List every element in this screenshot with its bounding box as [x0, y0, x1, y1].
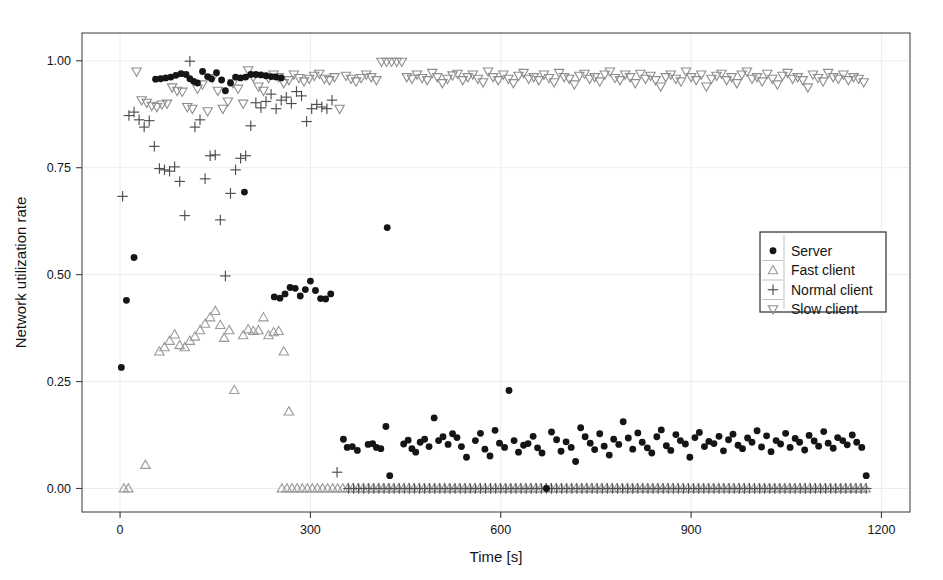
data-point: [227, 80, 234, 87]
data-point: [543, 485, 550, 492]
data-point: [405, 437, 412, 444]
data-point: [711, 440, 718, 447]
data-point: [421, 436, 428, 443]
data-point: [297, 293, 304, 300]
data-point: [312, 287, 319, 294]
y-tick-label: 0.50: [47, 268, 71, 282]
data-point: [278, 74, 285, 81]
data-point: [377, 445, 384, 452]
data-point: [796, 439, 803, 446]
data-point: [754, 427, 761, 434]
data-point: [354, 447, 361, 454]
data-point: [340, 436, 347, 443]
data-point: [658, 426, 665, 433]
legend-label: Normal client: [791, 282, 873, 298]
data-point: [327, 290, 334, 297]
data-point: [853, 439, 860, 446]
data-point: [431, 414, 438, 421]
data-point: [682, 441, 689, 448]
data-point: [384, 224, 391, 231]
data-point: [563, 438, 570, 445]
data-point: [725, 436, 732, 443]
data-point: [858, 444, 865, 451]
data-point: [844, 441, 851, 448]
data-point: [454, 434, 461, 441]
data-point: [477, 430, 484, 437]
data-point: [825, 440, 832, 447]
data-point: [123, 297, 130, 304]
data-point: [782, 430, 789, 437]
data-point: [426, 443, 433, 450]
data-point: [218, 77, 225, 84]
data-point: [213, 69, 220, 76]
data-point: [458, 443, 465, 450]
x-axis-title: Time [s]: [470, 548, 523, 565]
y-tick-label: 0.75: [47, 161, 71, 175]
data-point: [208, 75, 215, 82]
x-tick-label: 0: [117, 523, 124, 537]
data-point: [777, 441, 784, 448]
data-point: [768, 448, 775, 455]
legend-marker-filled-circle: [770, 247, 777, 254]
data-point: [194, 80, 201, 87]
data-point: [481, 446, 488, 453]
data-point: [849, 432, 856, 439]
data-point: [620, 418, 627, 425]
data-point: [131, 254, 138, 261]
data-point: [525, 440, 532, 447]
data-point: [639, 439, 646, 446]
data-point: [815, 443, 822, 450]
data-point: [292, 285, 299, 292]
data-point: [440, 433, 447, 440]
data-point: [672, 431, 679, 438]
data-point: [615, 441, 622, 448]
data-point: [606, 452, 613, 459]
data-point: [596, 430, 603, 437]
data-point: [382, 423, 389, 430]
data-point: [445, 441, 452, 448]
data-point: [572, 458, 579, 465]
legend-label: Fast client: [791, 262, 855, 278]
data-point: [199, 68, 206, 75]
x-tick-label: 600: [490, 523, 511, 537]
data-point: [412, 449, 419, 456]
data-point: [806, 432, 813, 439]
data-point: [539, 450, 546, 457]
data-point: [386, 472, 393, 479]
data-point: [686, 454, 693, 461]
data-point: [739, 445, 746, 452]
data-point: [558, 448, 565, 455]
x-tick-label: 900: [681, 523, 702, 537]
data-point: [863, 472, 870, 479]
data-point: [634, 429, 641, 436]
data-point: [667, 447, 674, 454]
data-point: [222, 87, 229, 94]
data-point: [568, 444, 575, 451]
data-point: [553, 436, 560, 443]
data-point: [629, 446, 636, 453]
data-point: [271, 293, 278, 300]
data-point: [601, 443, 608, 450]
chart-figure: 030060090012000.000.250.500.751.00 Time …: [0, 0, 943, 580]
y-tick-label: 0.00: [47, 482, 71, 496]
data-point: [820, 428, 827, 435]
data-point: [487, 453, 494, 460]
data-point: [730, 431, 737, 438]
chart-legend[interactable]: ServerFast clientNormal clientSlow clien…: [760, 232, 886, 317]
data-point: [118, 364, 125, 371]
x-tick-label: 300: [300, 523, 321, 537]
data-point: [763, 432, 770, 439]
data-point: [492, 427, 499, 434]
data-point: [282, 290, 289, 297]
legend-label: Slow client: [791, 301, 858, 317]
data-point: [787, 444, 794, 451]
data-point: [530, 433, 537, 440]
data-point: [696, 429, 703, 436]
data-point: [587, 440, 594, 447]
x-tick-label: 1200: [868, 523, 896, 537]
data-point: [610, 436, 617, 443]
data-point: [472, 437, 479, 444]
data-point: [463, 454, 470, 461]
scatter-plot: 030060090012000.000.250.500.751.00 Time …: [0, 0, 943, 580]
legend-label: Server: [791, 243, 833, 259]
